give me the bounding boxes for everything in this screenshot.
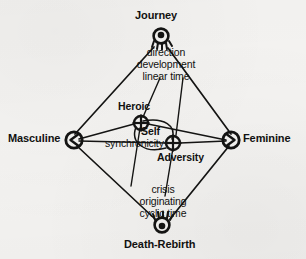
center-label-synchronicity: synchronicity — [105, 138, 164, 149]
attribute-line: linear time — [127, 71, 205, 83]
edge-journey-adversity — [176, 78, 183, 135]
attribute-block-journey: direction development linear time — [127, 47, 205, 82]
node-label-adversity: Adversity — [157, 152, 204, 163]
center-label-self: Self — [141, 126, 160, 137]
crossed-circle-icon-adversity — [165, 135, 182, 152]
edge-feminine-adversity — [180, 141, 226, 143]
attribute-line: development — [127, 59, 205, 71]
attribute-block-death-rebirth: crisis originating cyclic time — [124, 184, 202, 219]
node-label-masculine: Masculine — [8, 133, 60, 144]
figure-canvas: Journey Masculine Feminine Death-Rebirth… — [0, 0, 306, 259]
attribute-line: cyclic time — [124, 208, 202, 220]
attribute-line: originating — [124, 196, 202, 208]
node-label-death-rebirth: Death-Rebirth — [124, 239, 195, 250]
node-label-feminine: Feminine — [243, 133, 291, 144]
circle-arrow-left-icon — [66, 132, 82, 148]
node-label-heroic: Heroic — [118, 101, 150, 112]
node-label-journey: Journey — [135, 10, 177, 21]
